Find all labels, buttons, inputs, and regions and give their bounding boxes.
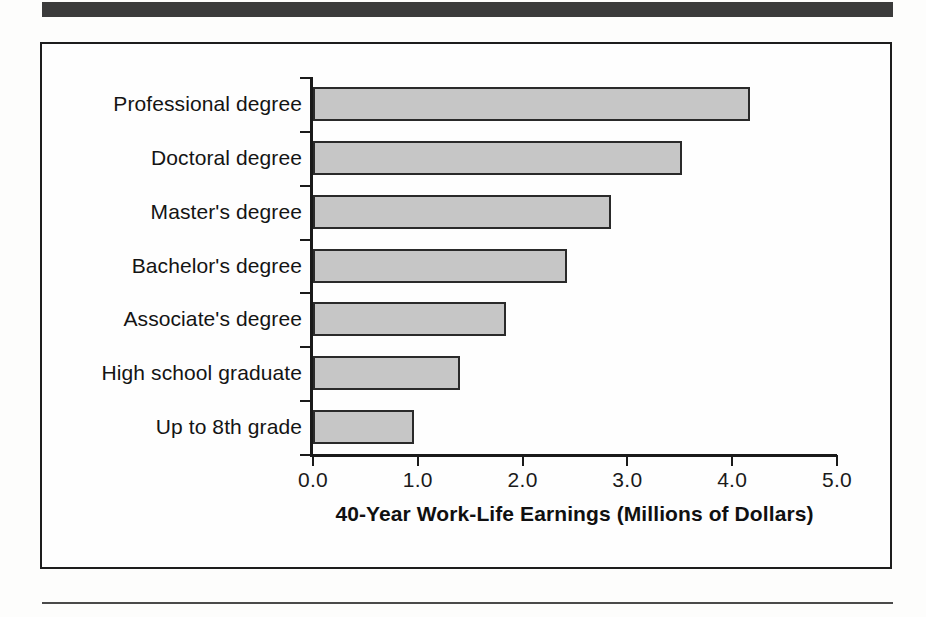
category-label: Bachelor's degree bbox=[132, 254, 311, 278]
y-axis-tick bbox=[300, 239, 311, 241]
bar bbox=[313, 87, 750, 121]
y-axis-tick bbox=[300, 400, 311, 402]
x-axis-tick-label: 3.0 bbox=[612, 468, 642, 492]
chart-frame: 0.01.02.03.04.05.0 Professional degreeDo… bbox=[40, 42, 892, 569]
category-label: Up to 8th grade bbox=[156, 415, 311, 439]
x-axis-tick bbox=[836, 455, 838, 466]
category-label: High school graduate bbox=[102, 361, 311, 385]
bar bbox=[313, 410, 414, 444]
bottom-decorative-rule bbox=[42, 602, 893, 604]
x-axis-tick bbox=[626, 455, 628, 466]
y-axis-tick bbox=[300, 185, 311, 187]
x-axis-tick-label: 0.0 bbox=[298, 468, 328, 492]
x-axis-tick-label: 1.0 bbox=[403, 468, 433, 492]
bar bbox=[313, 195, 611, 229]
category-label: Master's degree bbox=[151, 200, 311, 224]
x-axis-tick bbox=[417, 455, 419, 466]
y-axis-tick bbox=[300, 77, 311, 79]
y-axis-tick bbox=[300, 131, 311, 133]
x-axis-tick-label: 5.0 bbox=[822, 468, 852, 492]
bar bbox=[313, 249, 567, 283]
y-axis-tick bbox=[300, 292, 311, 294]
x-axis-tick-label: 4.0 bbox=[717, 468, 747, 492]
x-axis-line bbox=[310, 454, 837, 457]
bar bbox=[313, 356, 460, 390]
plot-area: 0.01.02.03.04.05.0 Professional degreeDo… bbox=[42, 44, 894, 571]
category-label: Doctoral degree bbox=[151, 146, 311, 170]
bar bbox=[313, 141, 682, 175]
top-decorative-rule bbox=[42, 2, 893, 17]
y-axis-tick bbox=[300, 454, 311, 456]
y-axis-tick bbox=[300, 346, 311, 348]
x-axis-tick bbox=[312, 455, 314, 466]
x-axis-tick-label: 2.0 bbox=[508, 468, 538, 492]
x-axis-title: 40-Year Work-Life Earnings (Millions of … bbox=[311, 502, 838, 526]
figure-page: 0.01.02.03.04.05.0 Professional degreeDo… bbox=[0, 0, 926, 617]
bar bbox=[313, 302, 506, 336]
x-axis-tick bbox=[522, 455, 524, 466]
category-label: Associate's degree bbox=[123, 307, 311, 331]
x-axis-tick bbox=[731, 455, 733, 466]
category-label: Professional degree bbox=[113, 92, 311, 116]
